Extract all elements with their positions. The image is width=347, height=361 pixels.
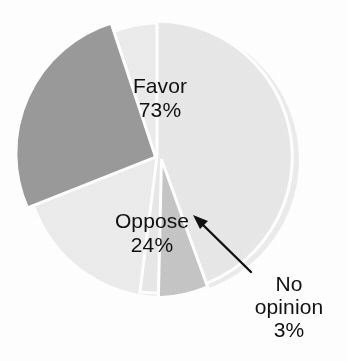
pie-chart-graphic — [0, 0, 347, 361]
pie-chart: Favor 73% Oppose 24% No opinion 3% — [0, 0, 347, 361]
